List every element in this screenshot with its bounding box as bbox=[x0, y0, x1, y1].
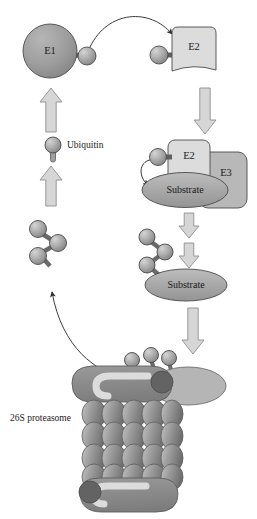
e2-top-ubiquitin-icon bbox=[150, 46, 174, 64]
proteasome-entry-knob bbox=[151, 371, 173, 393]
ubiquitin-legend-label: Ubiquitin bbox=[67, 140, 104, 150]
pathway-diagram: E1 E2 Ubiquitin E3 E2 bbox=[0, 0, 257, 519]
substrate-bound-label: Substrate bbox=[166, 184, 204, 195]
curved-arrow-e1-to-e2 bbox=[90, 17, 172, 47]
e3-label: E3 bbox=[220, 167, 232, 178]
ubiquitin-legend-icon bbox=[45, 137, 61, 162]
e1-label: E1 bbox=[44, 45, 56, 56]
e2-top-label: E2 bbox=[188, 41, 200, 52]
proteasome-complex bbox=[72, 348, 226, 513]
block-arrow-chain-to-substrate-down bbox=[179, 243, 199, 268]
substrate-tagged: Substrate bbox=[145, 269, 227, 301]
block-arrow-e2-to-complex-down bbox=[194, 88, 216, 134]
e2-complex-label: E2 bbox=[183, 150, 195, 161]
block-arrow-complex-to-chain-down bbox=[179, 213, 199, 238]
figure-canvas: E1 E2 Ubiquitin E3 E2 bbox=[0, 0, 257, 519]
e1-enzyme: E1 bbox=[23, 24, 88, 78]
block-arrow-ubiquitin-supply-up bbox=[40, 166, 62, 206]
substrate-tagged-label: Substrate bbox=[167, 279, 205, 290]
proteasome-exit-knob bbox=[79, 481, 101, 503]
substrate-bound-in-complex: Substrate bbox=[142, 173, 228, 208]
substrate-attached-polyubiquitin-chain bbox=[139, 229, 173, 276]
block-arrow-substrate-to-proteasome-down bbox=[182, 308, 204, 354]
proteasome-label: 26S proteasome bbox=[10, 413, 71, 423]
e1-bound-ubiquitin-icon bbox=[78, 47, 96, 65]
free-polyubiquitin-chain bbox=[30, 221, 67, 267]
e2-top-enzyme: E2 bbox=[172, 27, 216, 71]
block-arrow-e1-recharge-up bbox=[40, 88, 62, 132]
